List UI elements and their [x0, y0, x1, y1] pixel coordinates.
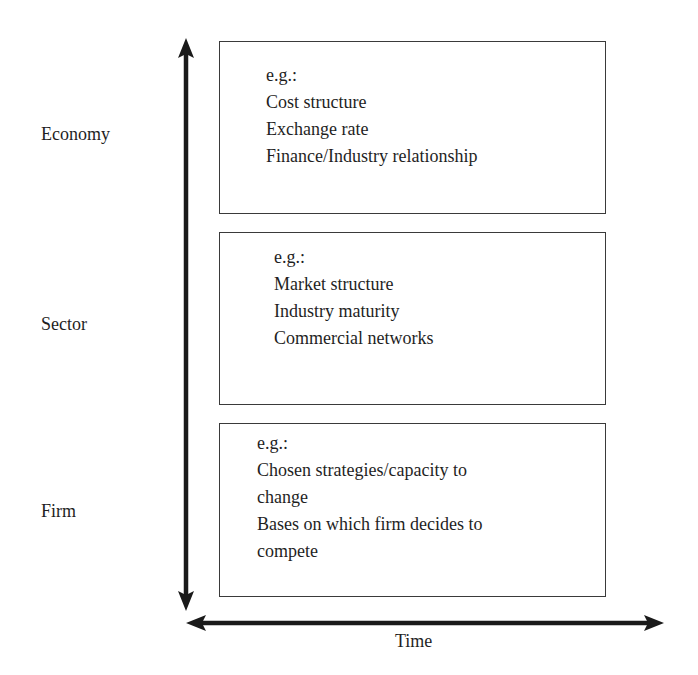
level-label-firm: Firm	[41, 501, 76, 521]
examples-heading: e.g.:	[257, 430, 482, 457]
example-item: Market structure	[274, 271, 433, 298]
economy-examples: e.g.: Cost structure Exchange rate Finan…	[266, 62, 477, 170]
horizontal-double-arrow	[186, 615, 664, 631]
example-item: Exchange rate	[266, 116, 477, 143]
firm-examples: e.g.: Chosen strategies/capacity to chan…	[257, 430, 482, 565]
sector-examples-box: e.g.: Market structure Industry maturity…	[219, 232, 606, 405]
example-item: compete	[257, 538, 482, 565]
example-item: Bases on which firm decides to	[257, 511, 482, 538]
sector-examples: e.g.: Market structure Industry maturity…	[274, 244, 433, 352]
example-item: Commercial networks	[274, 325, 433, 352]
level-label-economy: Economy	[41, 124, 110, 144]
vertical-double-arrow	[178, 38, 194, 611]
example-item: Finance/Industry relationship	[266, 143, 477, 170]
firm-examples-box: e.g.: Chosen strategies/capacity to chan…	[219, 423, 606, 597]
example-item: change	[257, 484, 482, 511]
economy-examples-box: e.g.: Cost structure Exchange rate Finan…	[219, 41, 606, 214]
examples-heading: e.g.:	[266, 62, 477, 89]
example-item: Chosen strategies/capacity to	[257, 457, 482, 484]
example-item: Cost structure	[266, 89, 477, 116]
example-item: Industry maturity	[274, 298, 433, 325]
time-axis-label: Time	[395, 631, 432, 651]
level-label-sector: Sector	[41, 314, 87, 334]
examples-heading: e.g.:	[274, 244, 433, 271]
